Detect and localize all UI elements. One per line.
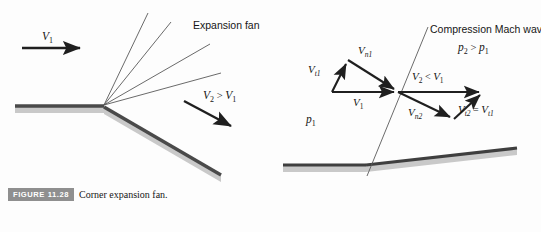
figure-11-28-caption: FIGURE 11.28Corner expansion fan. bbox=[8, 188, 268, 201]
figure-11-28-panel: V1 Expansion fan V2 > V1 FIGURE 11.28Cor… bbox=[0, 0, 270, 232]
figure-11-28-caption-text: Corner expansion fan. bbox=[79, 189, 168, 200]
vn1-vector bbox=[348, 60, 394, 89]
label-v2-gt-v1: V2 > V1 bbox=[203, 89, 236, 104]
label-vn2: Vn2 bbox=[408, 106, 422, 121]
figure-11-28-tag: FIGURE 11.28 bbox=[8, 188, 74, 201]
fan-ray-3 bbox=[104, 44, 210, 105]
label-v1: V1 bbox=[42, 30, 53, 45]
label-p2-gt-p1: p2 > p1 bbox=[457, 41, 489, 56]
wall-downstream bbox=[104, 107, 221, 175]
figure-page: V1 Expansion fan V2 > V1 FIGURE 11.28Cor… bbox=[0, 0, 541, 232]
vn2-vector bbox=[398, 92, 450, 117]
label-compression-mach-wave: Compression Mach wave bbox=[430, 23, 541, 35]
label-vt2-eq-vt1: Vt2 = Vt1 bbox=[458, 103, 494, 118]
label-v2-lt-v1: V2 < V1 bbox=[412, 70, 444, 85]
label-vn1: Vn1 bbox=[358, 44, 372, 59]
label-expansion-fan: Expansion fan bbox=[193, 19, 260, 31]
label-v1: V1 bbox=[353, 96, 364, 111]
mach-wave-deceleration-diagram: Compression Mach wave p2 > p1 p1 Vt1 Vn1… bbox=[270, 0, 541, 188]
vt1-vector bbox=[332, 64, 346, 92]
figure-11-29-panel: Compression Mach wave p2 > p1 p1 Vt1 Vn1… bbox=[270, 0, 541, 232]
corner-expansion-fan-diagram: V1 Expansion fan V2 > V1 bbox=[0, 0, 270, 188]
label-p1: p1 bbox=[305, 113, 316, 128]
label-vt1: Vt1 bbox=[308, 63, 321, 78]
v2-arrow bbox=[184, 101, 231, 126]
